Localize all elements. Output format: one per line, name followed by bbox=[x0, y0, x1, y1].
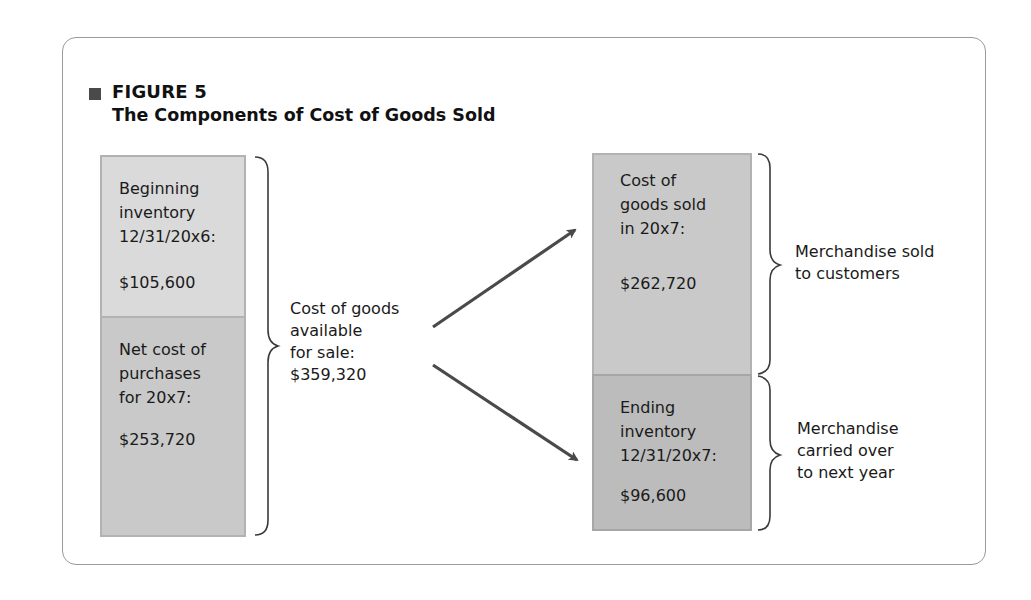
left-brace-icon bbox=[255, 157, 278, 535]
arrow-up-icon bbox=[433, 230, 575, 327]
arrow-down-icon bbox=[433, 365, 577, 460]
right-upper-brace-icon bbox=[758, 154, 780, 374]
diagram-connectors bbox=[0, 0, 1031, 600]
right-lower-brace-icon bbox=[758, 376, 780, 530]
